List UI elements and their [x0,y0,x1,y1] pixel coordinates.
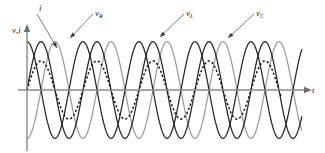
y-axis-label: v,i [12,25,21,35]
x-axis-label: t [312,85,315,95]
y-axis-arrowhead [24,24,30,32]
annotation-vC: vC [228,8,265,38]
annotation-label-vR: vR [95,8,103,19]
annotation-vR: vR [70,8,103,38]
leader-line-i [37,14,57,48]
waveform-figure: v,i t ivRvLvC [0,0,325,153]
annotation-label-vL: vL [186,8,194,19]
x-axis-arrowhead [304,87,312,93]
annotation-label-vC: vC [256,8,265,19]
annotation-vL: vL [160,8,194,37]
annotation-label-i: i [39,3,42,13]
annotations-group: ivRvLvC [37,3,265,48]
